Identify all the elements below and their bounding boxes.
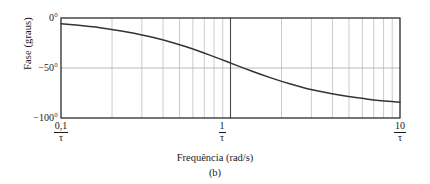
x-tick-center-numerator: 1 xyxy=(219,121,226,132)
figure-caption: (b) xyxy=(0,167,430,178)
x-tick-right-denominator: τ xyxy=(394,132,406,144)
x-axis-title: Frequência (rad/s) xyxy=(0,152,430,163)
x-tick-label-right: 10 τ xyxy=(374,121,426,143)
x-tick-label-center: 1 τ xyxy=(196,121,248,143)
x-tick-center-denominator: τ xyxy=(219,132,226,144)
x-tick-left-denominator: τ xyxy=(54,132,69,144)
bode-phase-figure: Fase (graus) 0° −50° −100° 0,1 τ 1 τ 10 xyxy=(0,0,430,184)
x-tick-left-numerator: 0,1 xyxy=(54,121,69,132)
x-tick-label-left: 0,1 τ xyxy=(35,121,87,143)
x-tick-right-numerator: 10 xyxy=(394,121,406,132)
